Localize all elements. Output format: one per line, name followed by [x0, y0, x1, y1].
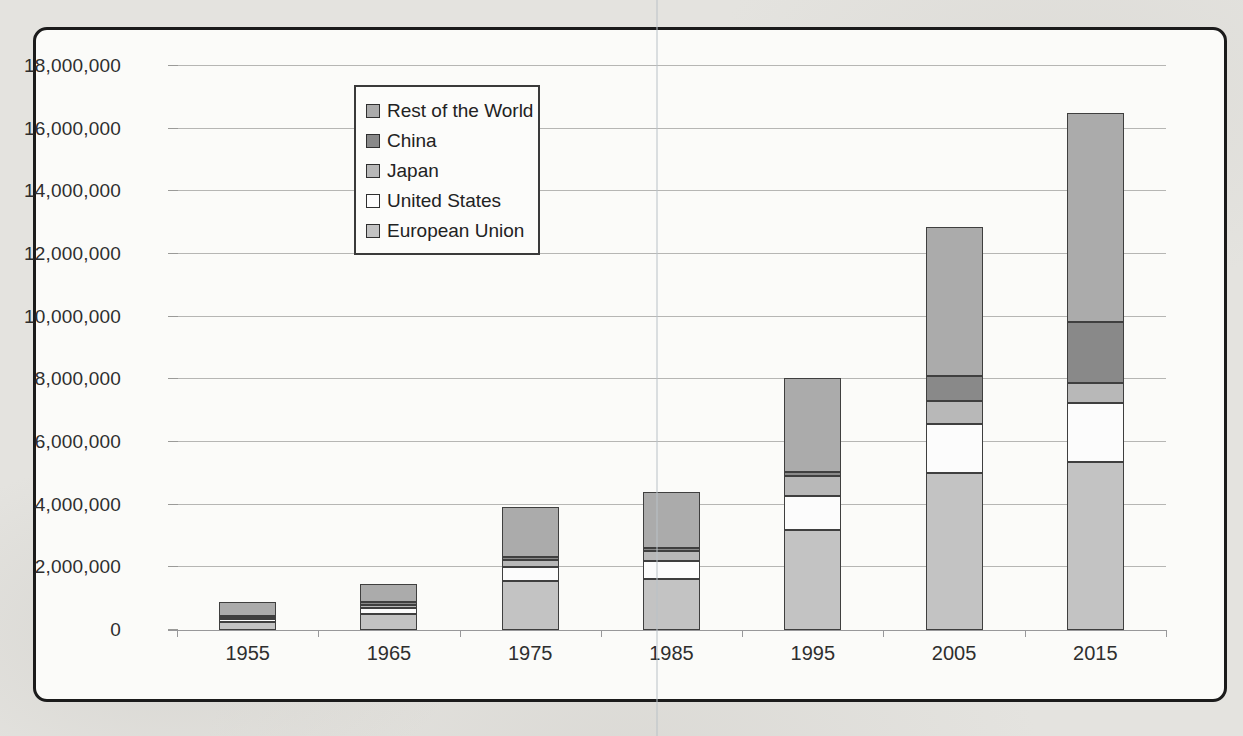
bar-segment-japan [784, 476, 841, 496]
gridline [177, 128, 1166, 129]
legend-swatch-icon [366, 194, 380, 208]
bar-segment-rest-of-the-world [643, 492, 700, 547]
gridline [177, 65, 1166, 66]
y-axis-tick [168, 65, 178, 66]
legend-item: China [366, 126, 528, 156]
bar-segment-china [502, 557, 559, 560]
y-axis-label: 12,000,000 [1, 243, 121, 265]
bar-segment-china [1067, 322, 1124, 383]
y-axis-tick [168, 566, 178, 567]
legend-swatch-icon [366, 104, 380, 118]
legend-swatch-icon [366, 164, 380, 178]
y-axis-label: 16,000,000 [1, 118, 121, 140]
y-axis-tick [168, 190, 178, 191]
bar-segment-china [360, 602, 417, 605]
bar-segment-china [784, 472, 841, 476]
legend-item: Japan [366, 156, 528, 186]
bar-segment-japan [360, 605, 417, 608]
x-axis-label: 1975 [460, 642, 601, 666]
bar-segment-european-union [219, 622, 276, 630]
bar-segment-china [926, 376, 983, 402]
bar-segment-united-states [926, 424, 983, 473]
x-axis-tick [318, 631, 319, 637]
bar-segment-european-union [360, 614, 417, 630]
y-axis-label: 8,000,000 [1, 368, 121, 390]
bar-segment-united-states [502, 567, 559, 581]
x-axis-tick [742, 631, 743, 637]
scanned-page: { "chart_data": { "type": "bar", "stacke… [0, 0, 1243, 736]
gridline [177, 253, 1166, 254]
legend-label: Japan [387, 160, 439, 182]
gridline [177, 378, 1166, 379]
gridline [177, 441, 1166, 442]
x-axis-tick [883, 631, 884, 637]
bar-segment-european-union [1067, 462, 1124, 630]
y-axis-tick [168, 316, 178, 317]
y-axis-tick [168, 504, 178, 505]
gridline [177, 316, 1166, 317]
bar-segment-european-union [502, 581, 559, 630]
x-axis-label: 1995 [742, 642, 883, 666]
bar-segment-china [219, 616, 276, 619]
y-axis-label: 6,000,000 [1, 431, 121, 453]
x-axis-label: 1965 [318, 642, 459, 666]
bar-segment-united-states [1067, 403, 1124, 463]
y-axis-tick [168, 441, 178, 442]
plot-area [177, 66, 1166, 630]
bar-segment-united-states [643, 561, 700, 579]
gridline [177, 190, 1166, 191]
bar-segment-european-union [926, 473, 983, 630]
x-axis-label: 2005 [883, 642, 1024, 666]
bar-segment-european-union [784, 530, 841, 630]
bar-segment-united-states [219, 619, 276, 622]
legend-label: China [387, 130, 437, 152]
bar-segment-united-states [784, 496, 841, 530]
y-axis-label: 2,000,000 [1, 556, 121, 578]
legend-label: United States [387, 190, 501, 212]
bar-segment-japan [502, 560, 559, 567]
legend-label: Rest of the World [387, 100, 533, 122]
bar-segment-rest-of-the-world [1067, 113, 1124, 322]
legend-swatch-icon [366, 224, 380, 238]
chart-legend: Rest of the WorldChinaJapanUnited States… [354, 85, 540, 255]
bar-segment-rest-of-the-world [784, 378, 841, 472]
bar-segment-japan [926, 401, 983, 424]
bar-segment-japan [643, 551, 700, 561]
y-axis-label: 18,000,000 [1, 55, 121, 77]
y-axis-tick [168, 128, 178, 129]
bar-segment-china [643, 548, 700, 551]
x-axis-tick [601, 631, 602, 637]
bar-segment-united-states [360, 608, 417, 614]
x-axis-label: 1955 [177, 642, 318, 666]
chart-frame: Rest of the WorldChinaJapanUnited States… [33, 27, 1227, 702]
legend-item: Rest of the World [366, 96, 528, 126]
legend-item: United States [366, 186, 528, 216]
x-axis-label: 1985 [601, 642, 742, 666]
x-axis-tick [460, 631, 461, 637]
y-axis-label: 10,000,000 [1, 306, 121, 328]
bar-segment-rest-of-the-world [502, 507, 559, 558]
bar-segment-rest-of-the-world [926, 227, 983, 376]
bar-segment-rest-of-the-world [360, 584, 417, 602]
x-axis-tick [177, 631, 178, 637]
y-axis-label: 4,000,000 [1, 494, 121, 516]
x-axis-tick [1025, 631, 1026, 637]
scan-fold-line [656, 0, 658, 736]
bar-segment-european-union [643, 579, 700, 630]
x-axis-tick [1166, 631, 1167, 637]
x-axis-label: 2015 [1025, 642, 1166, 666]
legend-label: European Union [387, 220, 524, 242]
y-axis-tick [168, 253, 178, 254]
y-axis-label: 14,000,000 [1, 180, 121, 202]
y-axis-tick [168, 378, 178, 379]
legend-swatch-icon [366, 134, 380, 148]
y-axis-label: 0 [1, 619, 121, 641]
bar-segment-japan [1067, 383, 1124, 403]
bar-segment-rest-of-the-world [219, 602, 276, 616]
legend-item: European Union [366, 216, 528, 246]
